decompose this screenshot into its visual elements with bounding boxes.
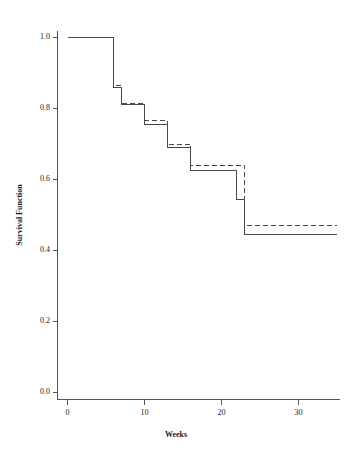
survival-plot-svg: 1.0 0.8 0.6 0.4 0.2 0.0 0 10 20 30 Weeks…	[0, 0, 351, 461]
y-tick-label-1: 0.2	[40, 316, 50, 325]
y-tick-label-4: 0.8	[40, 103, 50, 112]
x-tick-label-1: 10	[141, 408, 149, 417]
x-tick-label-3: 30	[295, 408, 303, 417]
x-tick-group	[68, 400, 299, 406]
survival-curve-dashed	[68, 38, 338, 226]
y-tick-label-0: 0.0	[40, 387, 50, 396]
y-tick-label-5: 1.0	[40, 32, 50, 41]
y-tick-label-3: 0.6	[40, 174, 50, 183]
survival-chart-figure: 1.0 0.8 0.6 0.4 0.2 0.0 0 10 20 30 Weeks…	[0, 0, 351, 461]
x-tick-label-2: 20	[218, 408, 226, 417]
y-axis-title: Survival Function	[15, 184, 24, 246]
y-tick-group	[53, 38, 58, 393]
survival-curve-solid	[68, 38, 338, 235]
x-tick-label-0: 0	[66, 408, 70, 417]
y-tick-label-2: 0.4	[40, 245, 50, 254]
x-axis-title: Weeks	[165, 430, 187, 439]
